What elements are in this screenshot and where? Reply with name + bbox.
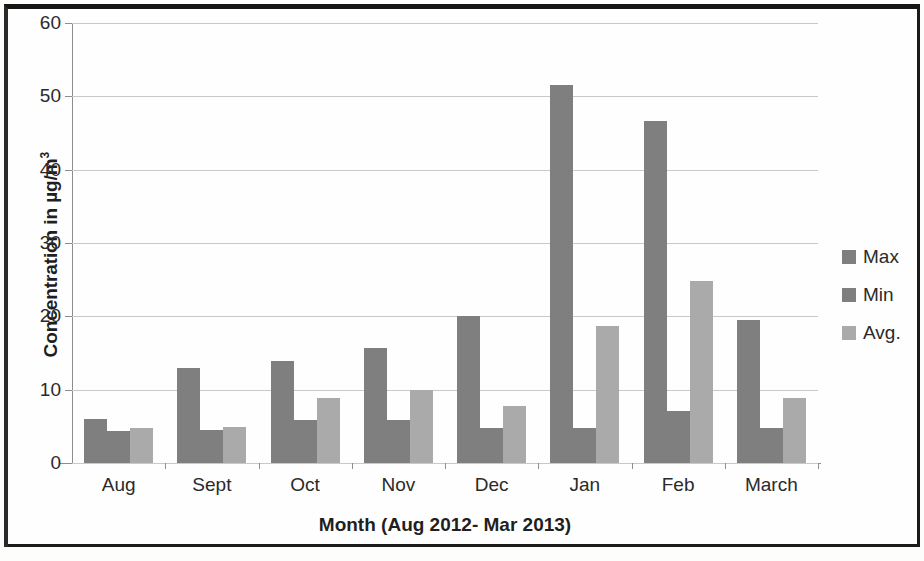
bar-max-feb — [644, 121, 667, 463]
bar-avg-jan — [596, 326, 619, 463]
legend-swatch-icon — [842, 250, 856, 264]
bar-avg-march — [783, 398, 806, 463]
y-tick-label: 50 — [40, 85, 61, 107]
x-tick-label-aug: Aug — [102, 474, 136, 496]
bar-max-aug — [84, 419, 107, 463]
y-tick-mark — [65, 463, 72, 464]
legend-item-max: Max — [842, 238, 901, 276]
y-axis-title-exponent: 3 — [38, 152, 52, 159]
bar-group — [271, 23, 340, 463]
bar-avg-sept — [223, 427, 246, 463]
legend-label: Min — [863, 284, 894, 306]
y-tick-label: 0 — [50, 452, 61, 474]
x-tick-label-feb: Feb — [662, 474, 695, 496]
bar-min-jan — [573, 428, 596, 463]
x-tick-mark — [818, 463, 819, 469]
bar-min-march — [760, 428, 783, 463]
bar-max-dec — [457, 316, 480, 463]
bar-group — [457, 23, 526, 463]
x-tick-mark — [632, 463, 633, 469]
y-tick-mark — [65, 170, 72, 171]
bar-min-sept — [200, 430, 223, 463]
bar-max-nov — [364, 348, 387, 463]
x-tick-mark — [445, 463, 446, 469]
y-tick-label: 10 — [40, 379, 61, 401]
bar-max-jan — [550, 85, 573, 463]
bar-avg-oct — [317, 398, 340, 463]
y-tick-mark — [65, 23, 72, 24]
bar-max-oct — [271, 361, 294, 463]
bar-chart-figure: Concentration in µg/m3 0102030405060 Aug… — [0, 0, 924, 561]
bar-min-oct — [294, 420, 317, 463]
x-tick-mark — [352, 463, 353, 469]
bar-avg-nov — [410, 390, 433, 463]
x-tick-mark — [165, 463, 166, 469]
legend-item-min: Min — [842, 276, 901, 314]
bar-group — [364, 23, 433, 463]
x-tick-label-march: March — [745, 474, 798, 496]
x-tick-mark — [538, 463, 539, 469]
bar-min-dec — [480, 428, 503, 463]
y-tick-label: 40 — [40, 159, 61, 181]
bar-min-aug — [107, 431, 130, 463]
x-tick-label-oct: Oct — [290, 474, 320, 496]
legend-label: Avg. — [863, 322, 901, 344]
legend-item-avg: Avg. — [842, 314, 901, 352]
y-tick-mark — [65, 243, 72, 244]
bar-group — [177, 23, 246, 463]
x-tick-mark — [259, 463, 260, 469]
x-tick-mark — [725, 463, 726, 469]
y-tick-mark — [65, 96, 72, 97]
bar-max-march — [737, 320, 760, 463]
plot-bars — [72, 23, 818, 463]
y-tick-label: 30 — [40, 232, 61, 254]
legend-label: Max — [863, 246, 899, 268]
y-axis-title-text: Concentration in µg/m — [40, 159, 61, 358]
y-tick-mark — [65, 316, 72, 317]
y-tick-label: 20 — [40, 305, 61, 327]
x-tick-label-dec: Dec — [475, 474, 509, 496]
legend-swatch-icon — [842, 288, 856, 302]
y-tick-mark — [65, 390, 72, 391]
bar-group — [737, 23, 806, 463]
bar-avg-feb — [690, 281, 713, 463]
bar-group — [550, 23, 619, 463]
x-tick-label-nov: Nov — [381, 474, 415, 496]
x-tick-label-jan: Jan — [570, 474, 601, 496]
x-tick-label-sept: Sept — [192, 474, 231, 496]
bar-avg-aug — [130, 428, 153, 463]
bar-group — [644, 23, 713, 463]
x-axis-title: Month (Aug 2012- Mar 2013) — [72, 514, 818, 536]
bar-group — [84, 23, 153, 463]
y-tick-label: 60 — [40, 12, 61, 34]
legend-swatch-icon — [842, 326, 856, 340]
bar-avg-dec — [503, 406, 526, 463]
bar-min-nov — [387, 420, 410, 463]
bar-min-feb — [667, 411, 690, 463]
chart-legend: MaxMinAvg. — [842, 238, 901, 352]
bar-max-sept — [177, 368, 200, 463]
